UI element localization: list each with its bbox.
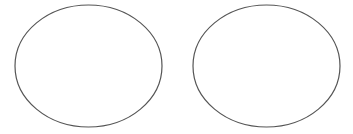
left-ellipse <box>15 5 162 127</box>
diagram-canvas <box>0 0 353 134</box>
right-ellipse <box>193 5 340 127</box>
diagram-svg <box>0 0 353 134</box>
